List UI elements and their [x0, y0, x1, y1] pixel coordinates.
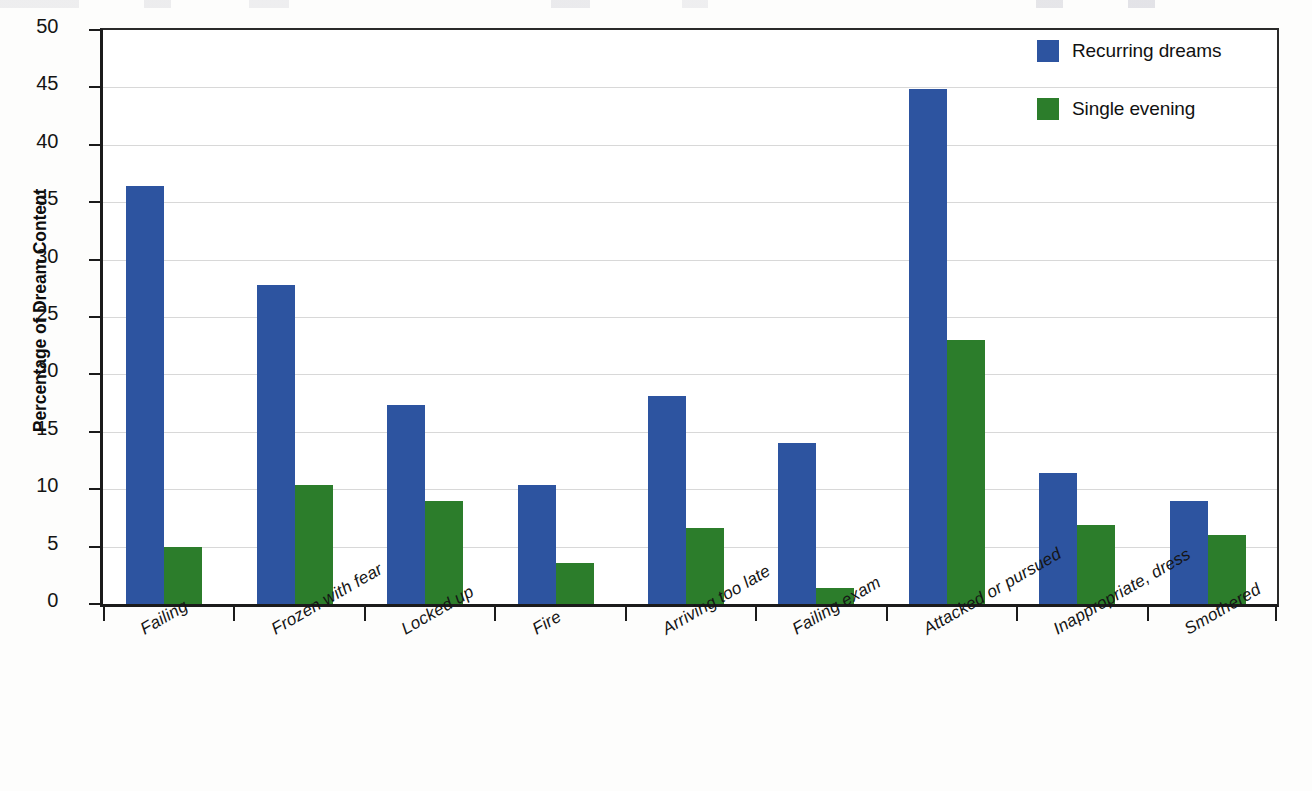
x-axis-tick [1016, 604, 1018, 621]
y-axis-tick-label: 35 [0, 187, 58, 210]
y-axis-tick [89, 86, 103, 88]
legend-item: Recurring dreams [1037, 40, 1277, 62]
bar [947, 340, 985, 604]
legend-label: Recurring dreams [1072, 40, 1221, 62]
y-axis-tick [89, 316, 103, 318]
y-axis-tick-label: 40 [0, 130, 58, 153]
x-axis-tick [755, 604, 757, 621]
x-axis-tick [364, 604, 366, 621]
y-axis-tick [89, 431, 103, 433]
x-axis-tick [1275, 604, 1277, 621]
y-axis-tick-label: 5 [0, 532, 58, 555]
y-axis-tick-label: 20 [0, 359, 58, 382]
x-axis-tick [625, 604, 627, 621]
bar [556, 563, 594, 604]
bar [257, 285, 295, 604]
y-axis-tick-label: 0 [0, 589, 58, 612]
bar [648, 396, 686, 604]
bar [518, 485, 556, 604]
y-axis-tick [89, 546, 103, 548]
y-axis-tick-label: 30 [0, 245, 58, 268]
bar [778, 443, 816, 604]
x-axis-tick [494, 604, 496, 621]
y-axis-tick [89, 373, 103, 375]
y-axis-tick-label: 25 [0, 302, 58, 325]
bar [387, 405, 425, 604]
x-axis-tick [1147, 604, 1149, 621]
y-axis-tick-label: 15 [0, 417, 58, 440]
y-axis-tick [89, 603, 103, 605]
bar-chart-figure: Percentage of Dream Content 051015202530… [0, 0, 1312, 791]
chart-legend: Recurring dreamsSingle evening [1037, 40, 1277, 156]
y-axis-tick [89, 259, 103, 261]
x-axis-tick [233, 604, 235, 621]
y-axis-tick-label: 45 [0, 72, 58, 95]
y-axis-tick [89, 29, 103, 31]
y-axis-tick [89, 488, 103, 490]
legend-color-swatch [1037, 98, 1059, 120]
y-axis-tick [89, 144, 103, 146]
x-axis-tick-label: Fire [529, 607, 565, 639]
bar [164, 547, 202, 604]
y-axis-tick-label: 10 [0, 474, 58, 497]
legend-color-swatch [1037, 40, 1059, 62]
scan-artifact-strip [0, 0, 1312, 8]
legend-item: Single evening [1037, 98, 1277, 120]
x-axis-tick [886, 604, 888, 621]
bar [909, 89, 947, 604]
x-axis-tick [103, 604, 105, 621]
y-axis-tick-label: 50 [0, 15, 58, 38]
legend-label: Single evening [1072, 98, 1195, 120]
bar [126, 186, 164, 604]
bar [1039, 473, 1077, 604]
y-axis-tick [89, 201, 103, 203]
bar [295, 485, 333, 604]
